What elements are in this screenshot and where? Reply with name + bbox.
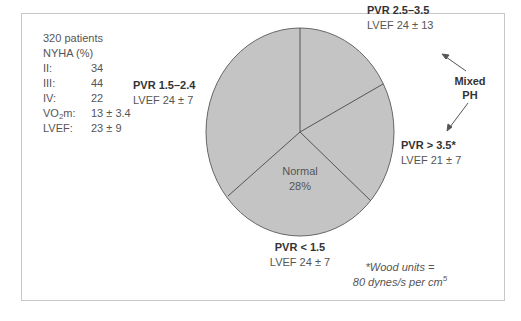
normal-slice-label: Normal 28% (258, 164, 342, 194)
mixed-ph-label: Mixed PH (447, 74, 493, 102)
footnote: *Wood units = 80 dynes/s per cm5 (330, 260, 470, 290)
label-pvr-gt-3-5: PVR > 3.5* LVEF 21 ± 7 (401, 138, 461, 168)
label-pvr-1-5-2-4: PVR 1.5–2.4 LVEF 24 ± 7 (133, 78, 195, 108)
label-pvr-2-5-3-5: PVR 2.5–3.5 LVEF 24 ± 13 (367, 3, 433, 33)
